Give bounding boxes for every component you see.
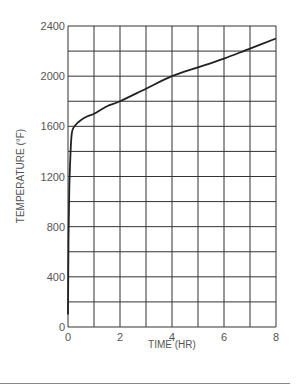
y-tick-label: 400 <box>47 271 65 283</box>
y-axis-ticks: 04008001200160020002400 <box>41 20 65 333</box>
x-tick-label: 2 <box>117 331 123 343</box>
y-tick-label: 1200 <box>41 171 65 183</box>
y-tick-label: 2000 <box>41 70 65 82</box>
bottom-divider <box>0 383 290 384</box>
y-axis-label: TEMPERATURE (°F) <box>15 129 26 223</box>
chart: 04008001200160020002400 02468 TEMPERATUR… <box>0 0 297 389</box>
x-tick-label: 6 <box>221 331 227 343</box>
y-tick-label: 800 <box>47 221 65 233</box>
grid-lines <box>68 26 276 327</box>
y-tick-label: 1600 <box>41 120 65 132</box>
x-axis-label: TIME (HR) <box>148 339 196 350</box>
x-tick-label: 8 <box>273 331 279 343</box>
x-tick-label: 0 <box>65 331 71 343</box>
y-tick-label: 2400 <box>41 20 65 32</box>
